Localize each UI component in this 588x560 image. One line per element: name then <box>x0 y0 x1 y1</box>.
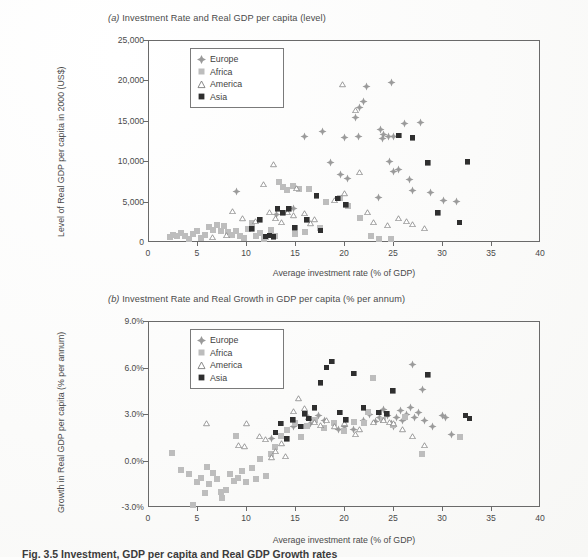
x-tick-mark <box>295 242 296 246</box>
data-point-europe <box>441 413 450 422</box>
x-tick-label: 10 <box>241 248 251 258</box>
y-tick-label: 6.0% <box>104 363 144 373</box>
data-point-america <box>384 222 391 228</box>
data-point-asia <box>410 135 416 141</box>
x-tick-mark <box>246 242 247 246</box>
x-tick-mark <box>491 507 492 511</box>
x-tick-label: 5 <box>195 248 200 258</box>
data-point-asia <box>337 410 343 416</box>
x-tick-mark <box>344 507 345 511</box>
data-point-asia <box>284 436 290 442</box>
x-tick-mark <box>393 242 394 246</box>
data-point-africa <box>214 476 220 482</box>
data-point-asia <box>280 210 286 216</box>
y-tick-mark <box>143 202 148 203</box>
data-point-africa <box>341 428 347 434</box>
triangle-outline-icon <box>196 79 207 90</box>
x-tick-label: 25 <box>388 248 398 258</box>
filled-square-icon <box>196 91 207 102</box>
diamond-icon <box>196 54 207 65</box>
x-tick-label: 40 <box>535 513 545 523</box>
x-tick-mark <box>393 507 394 511</box>
data-point-asia <box>298 424 304 430</box>
data-point-america <box>268 454 275 460</box>
data-point-africa <box>219 495 225 501</box>
x-tick-label: 25 <box>388 513 398 523</box>
filled-square-icon <box>196 372 207 383</box>
data-point-asia <box>278 421 284 427</box>
data-point-asia <box>271 234 277 240</box>
data-point-asia <box>304 217 310 223</box>
data-point-africa <box>457 434 463 440</box>
data-point-america <box>209 234 216 240</box>
legend-item-america: America <box>196 78 275 91</box>
data-point-asia <box>435 210 441 216</box>
data-point-america <box>370 419 377 425</box>
data-point-africa <box>292 231 298 237</box>
data-point-africa <box>206 481 212 487</box>
data-point-europe <box>351 113 360 122</box>
y-tick-mark <box>143 461 148 462</box>
data-point-africa <box>198 475 204 481</box>
square-icon <box>196 347 207 358</box>
data-point-asia <box>467 416 473 422</box>
triangle-outline-icon <box>196 360 207 371</box>
x-tick-label: 20 <box>339 513 349 523</box>
data-point-europe <box>426 188 435 197</box>
data-point-africa <box>388 236 394 242</box>
x-tick-label: 0 <box>146 248 151 258</box>
data-point-america <box>370 219 377 225</box>
data-point-america <box>290 212 297 218</box>
x-tick-label: 35 <box>486 248 496 258</box>
panel-a-ylabel: Level of Real GDP per capita in 2000 (US… <box>56 67 66 238</box>
data-point-america <box>339 81 346 87</box>
data-point-america <box>356 169 363 175</box>
data-point-asia <box>351 371 357 377</box>
data-point-europe <box>326 158 335 167</box>
data-point-africa <box>202 490 208 496</box>
data-point-asia <box>275 206 281 212</box>
data-point-asia <box>390 388 396 394</box>
data-point-asia <box>396 133 402 139</box>
data-point-africa <box>194 228 200 234</box>
data-point-africa <box>323 199 329 205</box>
data-point-asia <box>457 220 463 226</box>
data-point-africa <box>210 470 216 476</box>
panel-a-legend: Europe Africa America Asia <box>190 48 284 108</box>
data-point-america <box>331 423 338 429</box>
x-tick-mark <box>491 242 492 246</box>
data-point-africa <box>223 487 229 493</box>
data-point-africa <box>214 222 220 228</box>
data-point-europe <box>232 187 241 196</box>
y-tick-mark <box>143 80 148 81</box>
data-point-africa <box>253 476 259 482</box>
data-point-africa <box>204 464 210 470</box>
panel-a-xlabel: Average investment rate (% of GDP) <box>244 268 444 278</box>
data-point-europe <box>362 82 371 91</box>
data-point-africa <box>302 229 308 235</box>
data-point-africa <box>190 502 196 508</box>
data-point-europe <box>418 385 427 394</box>
data-point-europe <box>408 360 417 369</box>
data-point-africa <box>235 475 241 481</box>
data-point-europe <box>447 430 456 439</box>
legend-label-africa: Africa <box>210 67 233 77</box>
data-point-asia <box>273 430 279 436</box>
data-point-europe <box>428 422 437 431</box>
data-point-america <box>301 405 308 411</box>
data-point-europe <box>416 118 425 127</box>
panel-a-title: (a) Investment Rate and Real GDP per cap… <box>108 13 326 23</box>
x-tick-mark <box>442 507 443 511</box>
data-point-america <box>293 185 300 191</box>
data-point-asia <box>335 196 341 202</box>
x-tick-label: 15 <box>290 248 300 258</box>
data-point-america <box>421 225 428 231</box>
data-point-africa <box>239 468 245 474</box>
legend-label-europe: Europe <box>210 54 238 64</box>
data-point-america <box>390 420 397 426</box>
y-tick-mark <box>143 40 148 41</box>
y-tick-mark <box>143 161 148 162</box>
data-point-america <box>290 408 297 414</box>
legend-item-africa: Africa <box>196 347 275 360</box>
data-point-asia <box>312 405 318 411</box>
